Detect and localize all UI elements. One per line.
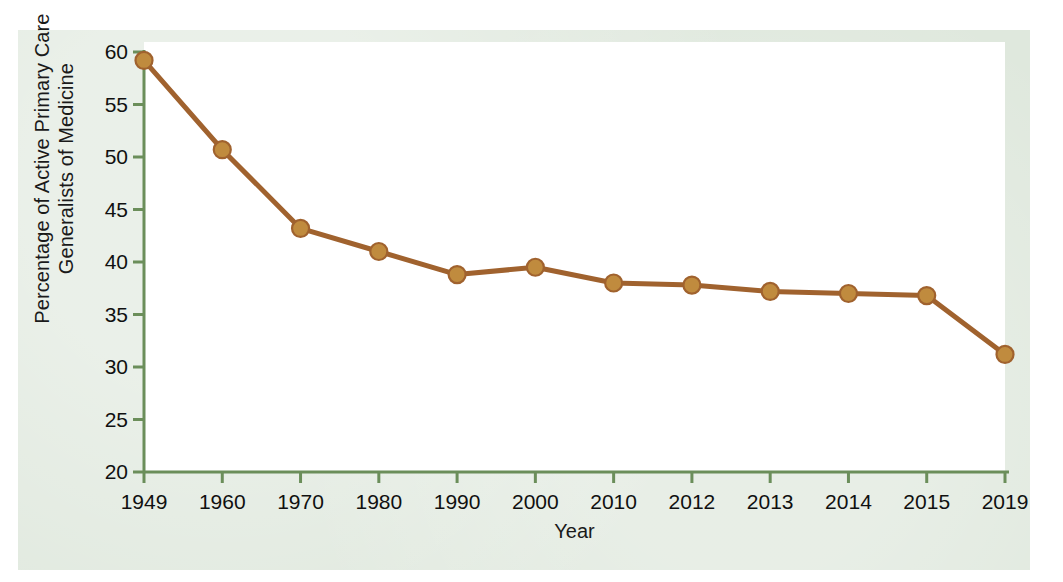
x-axis-tick-label: 2010 [590, 490, 637, 514]
y-axis-title: Percentage of Active Primary Care Genera… [31, 0, 78, 384]
x-axis-tick-label: 1970 [277, 490, 324, 514]
x-axis-tick-label: 2019 [982, 490, 1029, 514]
x-axis-tick-label: 2014 [825, 490, 872, 514]
x-axis-tick-label: 2000 [512, 490, 559, 514]
data-series-line [144, 60, 1005, 354]
data-point-markers [136, 52, 1014, 363]
y-axis-tick-label: 25 [34, 408, 128, 432]
axes [133, 50, 1009, 483]
x-axis-tick-label: 2015 [903, 490, 950, 514]
x-axis-tick-label: 1980 [355, 490, 402, 514]
x-axis-tick-label: 2013 [747, 490, 794, 514]
y-axis-tick-label: 20 [34, 460, 128, 484]
x-axis-tick-label: 2012 [669, 490, 716, 514]
x-axis-tick-label: 1960 [199, 490, 246, 514]
x-axis-tick-label: 1949 [121, 490, 168, 514]
y-axis-title-line-1: Percentage of Active Primary Care [31, 0, 55, 384]
y-axis-title-line-2: Generalists of Medicine [55, 0, 79, 384]
figure-container: 202530354045505560 194919601970198019902… [0, 0, 1063, 582]
x-axis-title: Year [144, 520, 1005, 543]
x-axis-tick-label: 1990 [434, 490, 481, 514]
